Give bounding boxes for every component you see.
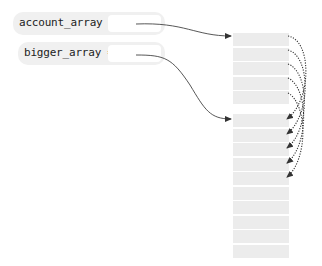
- reference-arrow-account-array: [136, 24, 231, 36]
- arrows-layer: [0, 0, 322, 266]
- reference-arrow-bigger-array: [136, 55, 231, 119]
- copy-arrows: [287, 36, 306, 177]
